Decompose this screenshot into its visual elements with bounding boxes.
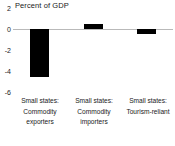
y-axis-tick-label: -2 bbox=[5, 47, 11, 54]
x-axis-category-label: Small states:Tourism-reliant bbox=[121, 96, 175, 117]
y-axis-tick-label: -4 bbox=[5, 68, 11, 75]
x-axis-category-label: Small states:Commodityexporters bbox=[13, 96, 67, 128]
y-axis-tick-label: 0 bbox=[7, 26, 11, 33]
y-axis-tick-label: -6 bbox=[5, 89, 11, 96]
category-label-line: Commodity bbox=[67, 107, 121, 118]
category-label-line: Small states: bbox=[67, 96, 121, 107]
bar bbox=[30, 29, 49, 77]
category-label-line: Small states: bbox=[121, 96, 175, 107]
bar bbox=[137, 29, 156, 34]
chart-container: Percent of GDP 20-2-4-6 Small states:Com… bbox=[0, 0, 175, 146]
plot-area: 20-2-4-6 bbox=[13, 8, 173, 92]
x-axis-category-label: Small states:Commodityimporters bbox=[67, 96, 121, 128]
category-label-line: Commodity bbox=[13, 107, 67, 118]
x-axis-category-labels: Small states:CommodityexportersSmall sta… bbox=[13, 96, 175, 144]
category-label-line: Small states: bbox=[13, 96, 67, 107]
category-label-line: importers bbox=[67, 117, 121, 128]
category-label-line: Tourism-reliant bbox=[121, 107, 175, 118]
y-axis-tick-label: 2 bbox=[7, 5, 11, 12]
bar bbox=[84, 24, 103, 29]
category-label-line: exporters bbox=[13, 117, 67, 128]
